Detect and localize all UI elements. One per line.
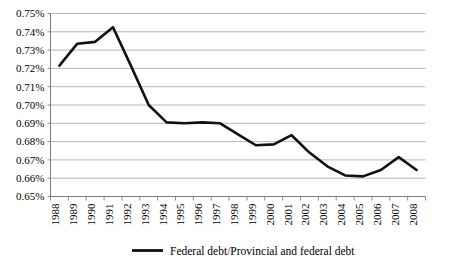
y-axis-tick-label: 0.68% xyxy=(16,135,44,147)
x-axis-tick-label: 1988 xyxy=(49,203,61,226)
y-axis-tick-label: 0.73% xyxy=(16,44,44,56)
y-axis-tick-label: 0.69% xyxy=(16,117,44,129)
x-axis-tick-label: 2006 xyxy=(371,203,383,226)
y-axis-tick-labels: 0.75%0.74%0.73%0.72%0.71%0.70%0.69%0.68%… xyxy=(16,7,44,202)
line-chart: 0.75%0.74%0.73%0.72%0.71%0.70%0.69%0.68%… xyxy=(0,0,460,265)
y-axis-tick-label: 0.72% xyxy=(16,62,44,74)
x-axis-tick-label: 2005 xyxy=(353,203,365,226)
x-axis-tick-label: 1989 xyxy=(67,203,79,226)
y-axis-tick-label: 0.66% xyxy=(16,172,44,184)
x-axis-tick-label: 1990 xyxy=(85,203,97,226)
x-axis-tick-label: 1997 xyxy=(210,203,222,226)
chart-legend: Federal debt/Provincial and federal debt xyxy=(132,245,355,257)
x-axis-tick-label: 2008 xyxy=(407,203,419,226)
gridlines xyxy=(48,14,426,197)
x-axis-tick-label: 1998 xyxy=(228,203,240,226)
x-axis-tick-label: 1991 xyxy=(103,204,115,226)
x-axis-tickmarks xyxy=(51,197,426,201)
x-axis-tick-label: 1996 xyxy=(192,203,204,226)
y-axis-tick-label: 0.75% xyxy=(16,7,44,19)
x-axis-tick-label: 1999 xyxy=(246,203,258,226)
x-axis-tick-label: 1992 xyxy=(121,204,133,226)
chart-container: 0.75%0.74%0.73%0.72%0.71%0.70%0.69%0.68%… xyxy=(0,0,460,265)
x-axis-tick-label: 2002 xyxy=(299,204,311,226)
x-axis-tick-label: 2001 xyxy=(282,204,294,226)
legend-label: Federal debt/Provincial and federal debt xyxy=(170,245,355,257)
y-axis-tick-label: 0.70% xyxy=(16,99,44,111)
y-axis-tick-label: 0.67% xyxy=(16,154,44,166)
x-axis-tick-labels: 1988198919901991199219931994199519961997… xyxy=(49,203,418,226)
x-axis-tick-label: 1993 xyxy=(139,203,151,226)
x-axis-tick-label: 2000 xyxy=(264,203,276,226)
y-axis-tick-label: 0.71% xyxy=(16,81,44,93)
x-axis-tick-label: 2003 xyxy=(317,203,329,226)
x-axis-tick-label: 1995 xyxy=(174,203,186,226)
x-axis-tick-label: 2004 xyxy=(335,203,347,226)
y-axis-tick-label: 0.74% xyxy=(16,26,44,38)
x-axis-tick-label: 2007 xyxy=(389,203,401,226)
data-series-line xyxy=(59,27,416,176)
x-axis-tick-label: 1994 xyxy=(157,203,169,226)
y-axis-tick-label: 0.65% xyxy=(16,190,44,202)
